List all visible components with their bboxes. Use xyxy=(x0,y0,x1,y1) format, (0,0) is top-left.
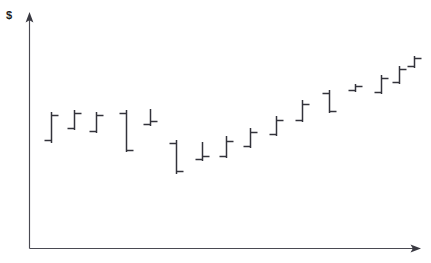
ohlc-bar xyxy=(244,128,258,148)
ohlc-bar xyxy=(144,109,158,126)
ohlc-bar xyxy=(120,110,134,152)
ohlc-bar xyxy=(45,112,59,143)
ohlc-bar xyxy=(296,100,310,122)
ohlc-bar xyxy=(323,90,337,113)
ohlc-bar xyxy=(68,110,82,130)
ohlc-chart-figure: $ xyxy=(0,0,431,263)
ohlc-bar xyxy=(349,84,363,92)
ohlc-bar xyxy=(408,56,422,68)
ohlc-bar xyxy=(196,142,210,161)
y-axis-label: $ xyxy=(6,9,12,21)
ohlc-bar xyxy=(393,66,407,84)
ohlc-bar xyxy=(375,75,389,94)
ohlc-bar xyxy=(90,112,104,133)
ohlc-bar-series xyxy=(45,56,422,174)
ohlc-bar xyxy=(220,136,234,158)
chart-canvas: $ xyxy=(0,0,431,263)
ohlc-bar xyxy=(170,140,184,174)
ohlc-bar xyxy=(270,116,284,136)
